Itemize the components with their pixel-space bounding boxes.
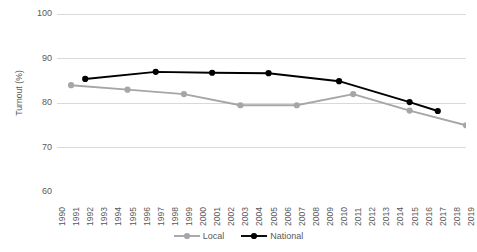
data-point: [237, 102, 243, 108]
data-point: [350, 91, 356, 97]
data-point: [153, 69, 159, 75]
y-axis-tick-label: 90: [26, 54, 52, 63]
y-axis-tick-label: 60: [26, 187, 52, 196]
x-axis-tick-label: 1997: [157, 207, 166, 226]
x-axis-tick-label: 1992: [86, 207, 95, 226]
y-axis-tick-label: 70: [26, 143, 52, 152]
y-axis-tick-labels: 10090807060: [22, 0, 52, 252]
x-axis-tick-label: 2013: [382, 207, 391, 226]
legend-label: National: [270, 232, 303, 241]
x-axis-tick-label: 1999: [185, 207, 194, 226]
x-axis-tick-label: 2018: [453, 207, 462, 226]
plot-area: [57, 14, 466, 192]
x-axis-tick-labels: 1990199119921993199419951996199719981999…: [57, 192, 466, 232]
chart-canvas: [57, 14, 466, 192]
x-axis-tick-label: 2006: [284, 207, 293, 226]
series-line: [71, 85, 466, 125]
legend-marker-icon: [174, 231, 200, 241]
legend-item-national[interactable]: National: [241, 231, 303, 241]
data-point: [124, 87, 130, 93]
x-axis-tick-label: 2004: [255, 207, 264, 226]
x-axis-tick-label: 2017: [439, 207, 448, 226]
x-axis-tick-label: 2014: [396, 207, 405, 226]
data-point: [406, 107, 412, 113]
x-axis-tick-label: 2001: [213, 207, 222, 226]
data-point: [463, 122, 466, 128]
x-axis-tick-label: 2000: [199, 207, 208, 226]
x-axis-tick-label: 2002: [227, 207, 236, 226]
chart-legend: LocalNational: [0, 231, 477, 241]
x-axis-tick-label: 2009: [326, 207, 335, 226]
x-axis-tick-label: 2007: [298, 207, 307, 226]
data-point: [209, 70, 215, 76]
data-point: [435, 108, 441, 114]
x-axis-tick-label: 2011: [354, 208, 363, 226]
data-point: [265, 70, 271, 76]
series-national: [82, 69, 441, 114]
x-axis-tick-label: 1996: [143, 207, 152, 226]
data-point: [181, 91, 187, 97]
x-axis-tick-label: 1994: [114, 207, 123, 226]
x-axis-tick-label: 2003: [241, 207, 250, 226]
data-point: [68, 82, 74, 88]
legend-label: Local: [203, 232, 225, 241]
x-axis-tick-label: 2012: [368, 207, 377, 226]
x-axis-tick-label: 2019: [467, 207, 476, 226]
data-point: [336, 78, 342, 84]
x-axis-tick-label: 2016: [425, 207, 434, 226]
x-axis-tick-label: 1990: [58, 207, 67, 226]
x-axis-tick-label: 2010: [340, 207, 349, 226]
data-point: [82, 76, 88, 82]
x-axis-tick-label: 1993: [100, 207, 109, 226]
series-local: [68, 82, 466, 128]
legend-marker-icon: [241, 231, 267, 241]
data-point: [294, 102, 300, 108]
x-axis-tick-label: 2008: [312, 207, 321, 226]
y-axis-tick-label: 100: [26, 9, 52, 18]
x-axis-tick-label: 1998: [171, 207, 180, 226]
x-axis-tick-label: 2005: [270, 207, 279, 226]
data-point: [406, 99, 412, 105]
legend-item-local[interactable]: Local: [174, 231, 225, 241]
x-axis-tick-label: 1995: [129, 207, 138, 226]
x-axis-tick-label: 2015: [411, 207, 420, 226]
y-axis-tick-label: 80: [26, 98, 52, 107]
turnout-line-chart: Turnout (%) 10090807060 1990199119921993…: [0, 0, 477, 252]
x-axis-tick-label: 1991: [72, 207, 81, 226]
